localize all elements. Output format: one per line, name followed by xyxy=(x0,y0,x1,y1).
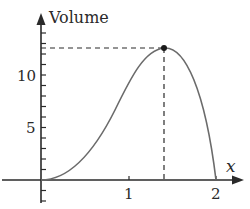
y-axis-arrow-icon xyxy=(37,13,46,25)
x-axis-arrow-icon xyxy=(232,176,244,185)
y-axis-label: Volume xyxy=(48,8,109,27)
max-point xyxy=(161,45,167,51)
y-tick-label-10: 10 xyxy=(17,67,36,85)
volume-curve xyxy=(41,48,216,180)
x-axis-label: x xyxy=(226,156,236,176)
volume-chart: Volume x 1 2 5 10 xyxy=(0,0,250,209)
x-tick-label-2: 2 xyxy=(211,185,221,203)
y-tick-label-5: 5 xyxy=(26,119,36,137)
x-tick-label-1: 1 xyxy=(124,185,134,203)
